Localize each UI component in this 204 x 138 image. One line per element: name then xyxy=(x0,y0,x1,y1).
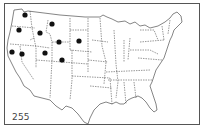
dot-colorado xyxy=(59,57,64,62)
us-outline xyxy=(7,9,182,124)
dot-oregon xyxy=(16,27,21,32)
dot-south-dakota xyxy=(76,38,81,43)
dot-washington xyxy=(22,12,27,17)
state-dots xyxy=(9,12,81,62)
dot-utah xyxy=(42,50,47,55)
dot-california xyxy=(9,49,14,54)
us-map xyxy=(0,0,204,138)
dot-montana xyxy=(49,21,54,26)
figure-number: 255 xyxy=(12,112,30,122)
dot-wyoming xyxy=(56,39,61,44)
dot-idaho xyxy=(37,30,42,35)
dot-nevada xyxy=(19,51,24,56)
